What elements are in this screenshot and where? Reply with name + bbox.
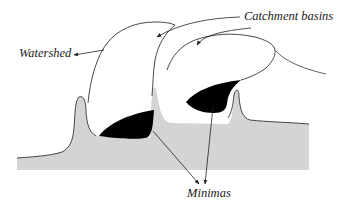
catchment-basin-right	[167, 34, 275, 80]
watershed-diagram	[0, 0, 343, 206]
minima-right	[186, 80, 241, 113]
minima-left	[99, 110, 154, 139]
basin-tail	[276, 51, 326, 74]
catchment-arrow-right	[197, 28, 251, 45]
terrain	[17, 87, 309, 170]
minimas-label: Minimas	[187, 187, 231, 200]
catchment-basins-label: Catchment basins	[244, 10, 333, 23]
watershed-arrow	[74, 50, 104, 55]
watershed-label: Watershed	[19, 47, 71, 60]
